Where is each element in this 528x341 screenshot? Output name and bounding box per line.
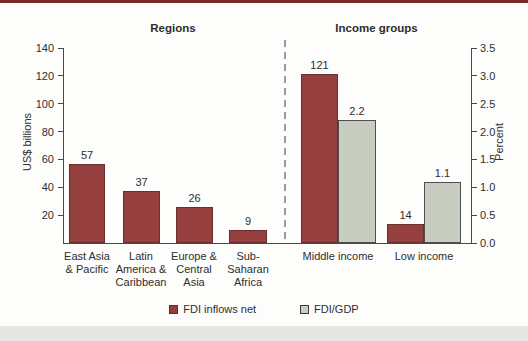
bar-value-label: 9 (226, 214, 270, 228)
left-axis-tick (58, 103, 64, 104)
category-label-sub-saharan-africa: Sub-SaharanAfrica (211, 250, 285, 289)
right-axis-tick (471, 243, 477, 244)
legend: FDI inflows netFDI/GDP (0, 303, 528, 315)
legend-item-fdi-gdp: FDI/GDP (300, 303, 359, 315)
right-axis-tick-label: 2.5 (480, 97, 516, 111)
fdi-bar-chart-figure: Regions Income groups US$ billions Perce… (0, 0, 528, 341)
left-axis-tick (58, 215, 64, 216)
left-axis-tick (58, 159, 64, 160)
category-label-line: Africa (211, 276, 285, 289)
left-axis-tick-label: 140 (18, 41, 54, 55)
bar-middle-income-fdi-gdp (338, 120, 376, 243)
bar-east-asia-pacific-fdi-inflows-net (69, 164, 105, 243)
bottom-strip (0, 326, 528, 341)
right-axis-tick (471, 215, 477, 216)
bar-middle-income-fdi-inflows-net (301, 74, 338, 243)
bar-low-income-fdi-inflows-net (387, 224, 424, 244)
left-axis-tick (58, 48, 64, 49)
legend-item-fdi-inflows-net: FDI inflows net (169, 303, 256, 315)
right-axis-tick-label: 0.0 (480, 236, 516, 250)
category-label-line: Sub- (211, 250, 285, 263)
right-axis-tick-label: 3.5 (480, 41, 516, 55)
left-axis-tick-label: 80 (18, 125, 54, 139)
right-axis-tick (471, 75, 477, 76)
legend-label: FDI/GDP (314, 303, 359, 315)
right-axis-tick (471, 131, 477, 132)
left-axis-tick (58, 75, 64, 76)
bar-value-label: 26 (173, 191, 217, 205)
bar-value-label: 14 (384, 208, 428, 222)
legend-label: FDI inflows net (183, 303, 256, 315)
right-axis-tick-label: 3.0 (480, 69, 516, 83)
right-axis-tick (471, 48, 477, 49)
category-label-low-income: Low income (364, 250, 484, 263)
category-label-line: Saharan (211, 263, 285, 276)
bar-value-label: 37 (120, 175, 164, 189)
top-rule (0, 0, 528, 3)
right-axis-tick-label: 1.5 (480, 152, 516, 166)
right-axis-tick (471, 103, 477, 104)
bar-low-income-fdi-gdp (424, 182, 461, 243)
bar-sub-saharan-africa-fdi-inflows-net (229, 230, 267, 243)
left-axis-tick-label: 40 (18, 180, 54, 194)
bar-value-label: 121 (298, 58, 342, 72)
dark-swatch-icon (169, 305, 178, 314)
right-axis-tick (471, 159, 477, 160)
bar-value-label: 2.2 (335, 104, 379, 118)
right-axis-tick (471, 187, 477, 188)
section-title-income-groups: Income groups (283, 22, 470, 34)
left-axis-tick (58, 187, 64, 188)
light-swatch-icon (300, 305, 309, 314)
bar-value-label: 57 (65, 148, 109, 162)
left-axis-tick-label: 20 (18, 208, 54, 222)
bar-value-label: 1.1 (421, 166, 465, 180)
left-axis-tick-label: 120 (18, 69, 54, 83)
section-title-regions: Regions (63, 22, 283, 34)
right-axis-tick-label: 1.0 (480, 180, 516, 194)
left-axis-tick-label: 60 (18, 152, 54, 166)
section-divider-dashed-line (284, 40, 286, 243)
right-axis-tick-label: 2.0 (480, 125, 516, 139)
plot-area: 204060801001201400.00.51.01.52.02.53.03.… (63, 48, 472, 244)
bar-latin-america-caribbean-fdi-inflows-net (123, 191, 160, 243)
left-axis-tick-label: 100 (18, 97, 54, 111)
right-axis-tick-label: 0.5 (480, 208, 516, 222)
bar-europe-central-asia-fdi-inflows-net (176, 207, 213, 243)
left-axis-tick (58, 131, 64, 132)
category-label-line: Low income (364, 250, 484, 263)
